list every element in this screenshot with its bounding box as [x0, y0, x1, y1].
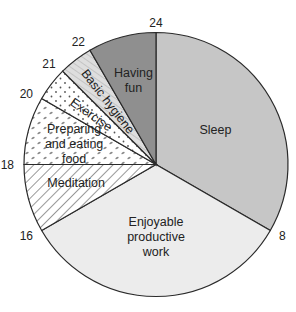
- slice-label-sleep: Sleep: [199, 123, 231, 137]
- tick-label-16: 16: [20, 229, 34, 243]
- tick-label-22: 22: [72, 35, 86, 49]
- tick-label-24: 24: [149, 16, 163, 30]
- tick-label-20: 20: [20, 87, 34, 101]
- slice-label-meditation: Meditation: [47, 176, 105, 190]
- tick-label-21: 21: [42, 57, 56, 71]
- tick-label-18: 18: [1, 158, 15, 172]
- pie-chart: SleepEnjoyableproductiveworkMeditationPr…: [0, 0, 296, 312]
- tick-label-8: 8: [279, 229, 286, 243]
